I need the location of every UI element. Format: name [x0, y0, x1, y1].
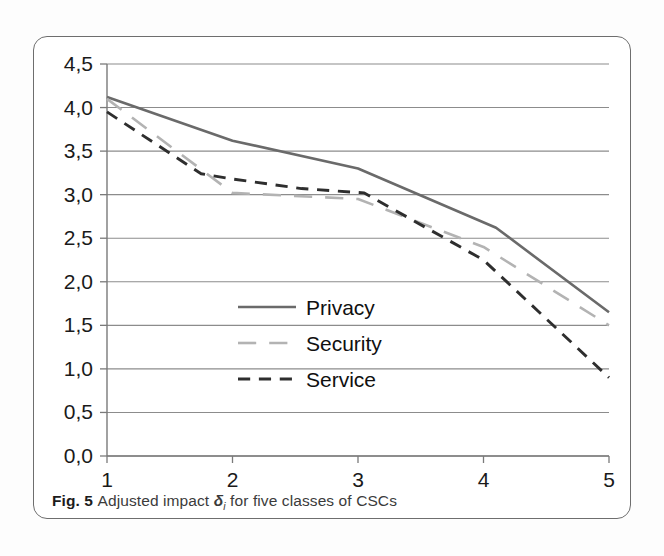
legend-label-service: Service	[306, 368, 376, 391]
y-axis-group	[100, 64, 107, 456]
y-tick-label-3,5: 3,5	[64, 139, 93, 162]
y-tick-labels-group: 0,00,51,01,52,02,53,03,54,04,5	[64, 52, 93, 467]
caption-figure-number: Fig. 5	[52, 492, 93, 509]
y-tick-label-1,5: 1,5	[64, 313, 93, 336]
series-line-privacy	[107, 97, 609, 312]
x-tick-label-3: 3	[352, 468, 364, 491]
legend-label-security: Security	[306, 332, 382, 355]
legend-label-privacy: Privacy	[306, 296, 375, 319]
x-tick-label-5: 5	[603, 468, 615, 491]
y-tick-label-0,0: 0,0	[64, 444, 93, 467]
figure-border-box: 0,00,51,01,52,02,53,03,54,04,5 12345 Pri…	[33, 36, 631, 519]
x-tick-label-4: 4	[478, 468, 490, 491]
figure-root: 0,00,51,01,52,02,53,03,54,04,5 12345 Pri…	[0, 0, 664, 556]
y-tick-label-4,0: 4,0	[64, 96, 93, 119]
series-line-security	[107, 99, 609, 325]
x-tick-labels-group: 12345	[101, 468, 615, 491]
figure-caption: Fig. 5 Adjusted impact δi for five class…	[52, 492, 622, 512]
x-tick-label-1: 1	[101, 468, 113, 491]
y-tick-label-2,5: 2,5	[64, 226, 93, 249]
x-axis-group	[107, 456, 609, 463]
y-tick-label-2,0: 2,0	[64, 270, 93, 293]
y-tick-label-1,0: 1,0	[64, 357, 93, 380]
y-tick-label-3,0: 3,0	[64, 183, 93, 206]
legend-group: PrivacySecurityService	[238, 296, 382, 391]
caption-text-before: Adjusted impact	[98, 492, 214, 509]
y-tick-label-4,5: 4,5	[64, 52, 93, 75]
y-tick-label-0,5: 0,5	[64, 400, 93, 423]
caption-delta-symbol: δ	[214, 492, 224, 509]
x-tick-label-2: 2	[227, 468, 239, 491]
line-chart-plot: 0,00,51,01,52,02,53,03,54,04,5 12345 Pri…	[34, 37, 632, 520]
caption-text-after: for five classes of CSCs	[226, 492, 397, 509]
